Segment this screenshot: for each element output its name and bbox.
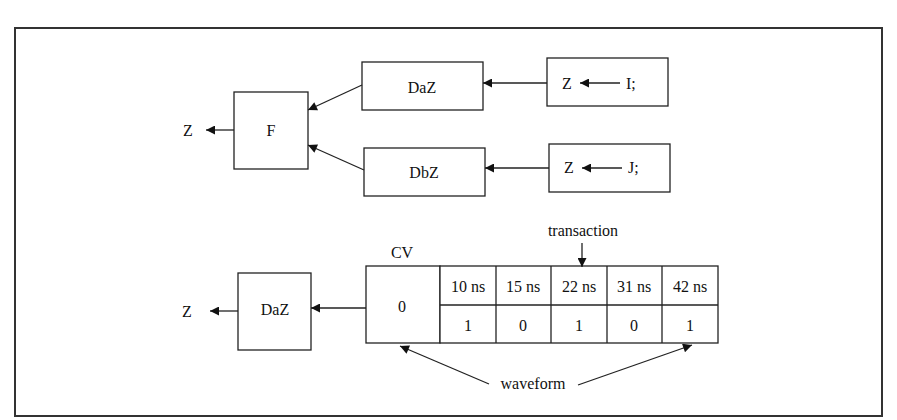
transaction-time: 15 ns — [506, 278, 540, 295]
transaction-time: 22 ns — [562, 278, 596, 295]
transaction-annotation: transaction — [548, 222, 618, 239]
process-a-source: I; — [626, 75, 636, 92]
process-a-target: Z — [562, 75, 572, 92]
transaction-value: 1 — [464, 317, 472, 334]
diagram-canvas: Z F DaZ DbZ process A Z I; process B Z J… — [0, 0, 897, 420]
driver-waveform-detail: Z DaZ CV 0 10 ns 15 ns 22 ns 31 ns 42 ns… — [182, 222, 718, 392]
current-value: 0 — [398, 298, 406, 315]
top-output-z-label: Z — [183, 122, 193, 139]
transaction-value: 1 — [575, 317, 583, 334]
waveform-left-arrow — [400, 346, 489, 384]
process-b-source: J; — [628, 159, 639, 176]
process-b-target: Z — [564, 159, 574, 176]
transaction-value: 0 — [630, 317, 638, 334]
transaction-time: 10 ns — [451, 278, 485, 295]
transaction-value: 0 — [519, 317, 527, 334]
bottom-output-z-label: Z — [182, 303, 192, 320]
waveform-right-arrow — [578, 345, 692, 385]
daz-to-f-arrow — [308, 85, 362, 110]
driver-daz-label: DaZ — [408, 79, 436, 96]
current-value-title: CV — [391, 244, 414, 261]
top-driver-network: Z F DaZ DbZ process A Z I; process B Z J… — [183, 58, 670, 196]
waveform-annotation: waveform — [501, 375, 566, 392]
resolution-function-label: F — [267, 122, 276, 139]
dbz-to-f-arrow — [308, 145, 364, 170]
driver-dbz-label: DbZ — [409, 164, 438, 181]
driver-daz-detail-label: DaZ — [261, 301, 289, 318]
transaction-time: 42 ns — [673, 278, 707, 295]
transaction-value: 1 — [686, 317, 694, 334]
transaction-time: 31 ns — [617, 278, 651, 295]
